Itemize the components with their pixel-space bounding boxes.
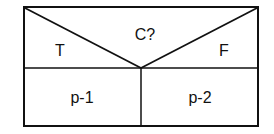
false-branch-process: p-2 — [188, 89, 211, 106]
ns-diagram: C? T F p-1 p-2 — [0, 0, 274, 134]
true-label: T — [55, 42, 65, 59]
true-branch-process: p-1 — [70, 89, 93, 106]
condition-label: C? — [135, 26, 156, 43]
false-label: F — [219, 42, 229, 59]
